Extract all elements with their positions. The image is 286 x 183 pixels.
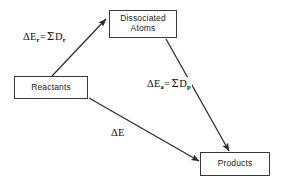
- energy-symbol: E: [154, 78, 161, 89]
- energy-subscript: a: [161, 83, 164, 90]
- dissociation-subscript: p: [187, 83, 191, 90]
- sigma-symbol: Σ: [170, 77, 179, 89]
- thermochemical-cycle-diagram: Dissociated Atoms Reactants Products ΔEr…: [0, 0, 286, 183]
- dissociation-symbol: D: [55, 31, 63, 42]
- delta-symbol: Δ: [23, 31, 30, 42]
- node-products: Products: [200, 152, 270, 176]
- label-delta-e-products: ΔEa=ΣDp: [146, 77, 192, 89]
- node-dissociated-atoms-text: Dissociated Atoms: [118, 14, 168, 34]
- sigma-symbol: Σ: [46, 30, 55, 42]
- energy-symbol: E: [30, 31, 37, 42]
- node-dissociated-atoms-line2: Atoms: [118, 24, 168, 34]
- arrow-reactants-to-products: [89, 98, 199, 161]
- node-reactants-label: Reactants: [29, 83, 73, 93]
- dissociation-symbol: D: [179, 78, 187, 89]
- label-delta-e-reactants: ΔEr=ΣDr: [22, 30, 67, 42]
- arrow-dissociated-atoms-to-products: [166, 39, 229, 151]
- dissociation-subscript: r: [63, 36, 66, 43]
- node-dissociated-atoms: Dissociated Atoms: [109, 10, 177, 38]
- label-delta-e-overall: ΔE: [110, 127, 126, 138]
- arrow-reactants-to-dissociated-atoms: [52, 19, 106, 76]
- energy-symbol: E: [118, 127, 125, 138]
- delta-symbol: Δ: [111, 127, 118, 138]
- node-products-label: Products: [216, 159, 255, 169]
- energy-subscript: r: [37, 36, 40, 43]
- node-reactants: Reactants: [14, 76, 88, 99]
- equals-symbol: =: [40, 31, 46, 42]
- delta-symbol: Δ: [147, 78, 154, 89]
